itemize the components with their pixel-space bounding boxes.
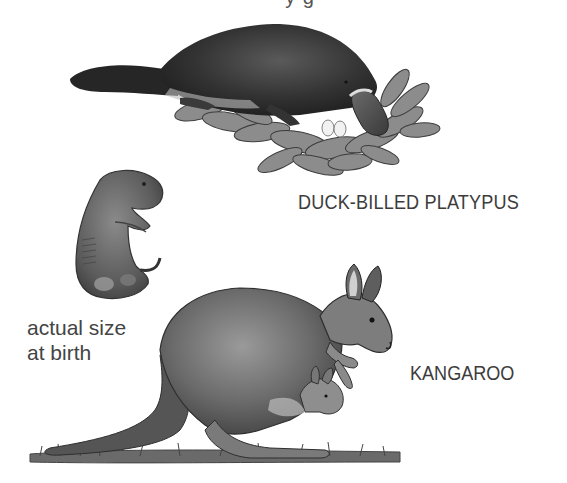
newborn-joey-illustration bbox=[76, 170, 163, 298]
egg-icon bbox=[334, 121, 346, 137]
egg-icon bbox=[322, 120, 334, 136]
joey-size-caption-line1: actual size bbox=[27, 315, 126, 340]
joey-body bbox=[76, 170, 163, 298]
platypus-label: DUCK-BILLED PLATYPUS bbox=[298, 190, 519, 214]
kangaroo-ear bbox=[362, 266, 381, 302]
joey-size-caption: actual size at birth bbox=[27, 315, 126, 365]
kangaroo-label: KANGAROO bbox=[410, 361, 514, 385]
joey-size-caption-line2: at birth bbox=[27, 340, 126, 365]
illustration-canvas bbox=[0, 0, 567, 483]
platypus-illustration bbox=[70, 24, 441, 179]
